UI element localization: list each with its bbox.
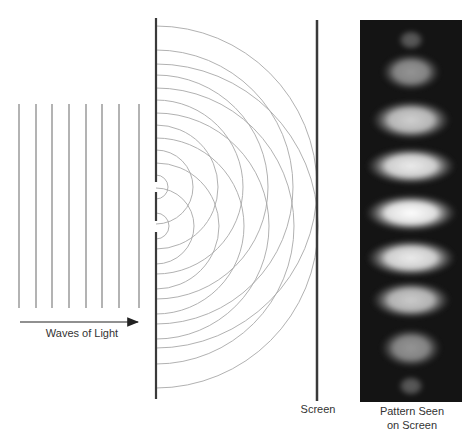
waves-of-light-label: Waves of Light <box>32 326 132 340</box>
diffraction-wavefronts <box>156 26 318 388</box>
circular-wavefront <box>156 188 194 264</box>
bright-fringe <box>371 100 451 140</box>
circular-wavefront <box>156 175 168 199</box>
circular-wavefront <box>156 150 193 224</box>
circular-wavefront <box>156 113 269 339</box>
bright-fringe <box>381 53 441 91</box>
interference-pattern-panel <box>360 20 462 402</box>
circular-wavefront <box>156 50 293 324</box>
circular-wavefront <box>156 213 169 239</box>
circular-wavefront <box>156 75 268 299</box>
incoming-light-waves <box>19 104 139 308</box>
pattern-label-line2: on Screen <box>370 418 454 432</box>
bright-fringe <box>397 375 425 397</box>
screen-label: Screen <box>293 402 343 416</box>
bright-fringe <box>366 147 456 185</box>
double-slit-diagram <box>0 0 473 439</box>
bright-fringe <box>371 281 451 319</box>
bright-fringe <box>365 194 457 232</box>
pattern-label-line1: Pattern Seen <box>370 404 454 418</box>
pattern-seen-label: Pattern Seen on Screen <box>370 404 454 432</box>
bright-fringe <box>380 328 442 368</box>
circular-wavefront <box>156 163 219 289</box>
bright-fringe <box>397 29 425 51</box>
bright-fringe <box>366 239 456 277</box>
